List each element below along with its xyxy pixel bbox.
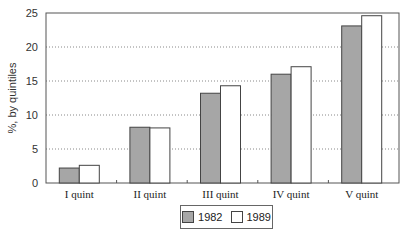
- legend-label-1989: 1989: [247, 211, 271, 223]
- x-category-label: I quint: [65, 188, 94, 200]
- bar-1989: [79, 165, 99, 183]
- y-tick-label: 10: [26, 109, 38, 121]
- chart-legend: 1982 1989: [180, 205, 273, 229]
- bar-1989: [291, 67, 311, 183]
- legend-swatch-1982: [182, 211, 194, 223]
- x-category-label: V quint: [345, 188, 378, 200]
- x-category-label: III quint: [202, 188, 238, 200]
- x-category-label: IV quint: [273, 188, 310, 200]
- y-tick-label: 25: [26, 7, 38, 19]
- y-tick-label: 15: [26, 75, 38, 87]
- bar-1982: [201, 93, 221, 183]
- y-axis-label: %, by quintiles: [6, 62, 18, 133]
- bar-chart: 0510152025I quintII quintIII quintIV qui…: [0, 0, 406, 237]
- bar-1982: [59, 168, 79, 183]
- x-category-label: II quint: [134, 188, 167, 200]
- bar-1982: [271, 74, 291, 183]
- y-tick-label: 20: [26, 41, 38, 53]
- y-tick-label: 0: [32, 177, 38, 189]
- bar-1989: [362, 16, 382, 183]
- bar-1989: [221, 86, 241, 183]
- legend-item-1982: 1982: [182, 211, 222, 223]
- y-tick-label: 5: [32, 143, 38, 155]
- bar-1989: [150, 128, 170, 183]
- legend-label-1982: 1982: [198, 211, 222, 223]
- legend-item-1989: 1989: [231, 211, 271, 223]
- legend-swatch-1989: [231, 211, 243, 223]
- bar-1982: [342, 26, 362, 183]
- bar-1982: [130, 127, 150, 183]
